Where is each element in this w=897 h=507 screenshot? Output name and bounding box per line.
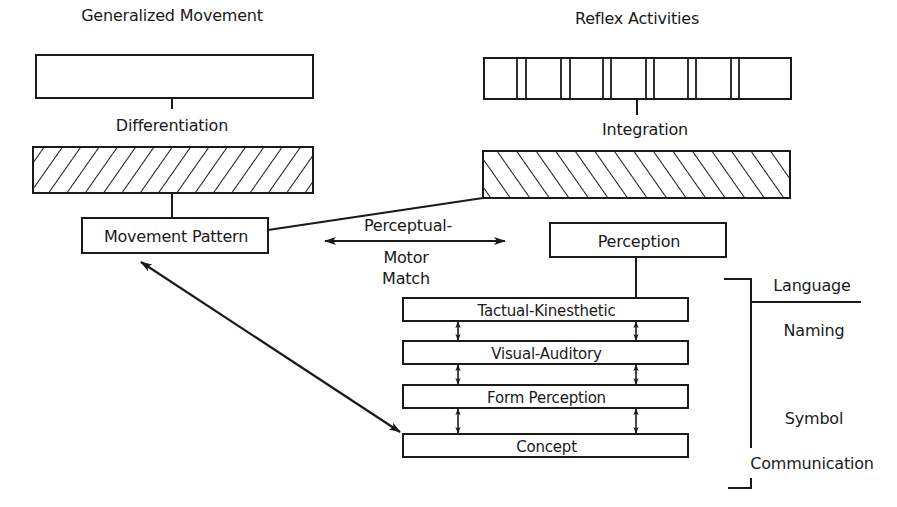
naming-label: Naming xyxy=(784,323,845,339)
tactual-kinesthetic-label: Tactual-Kinesthetic xyxy=(403,298,690,323)
differentiation-hatched-box xyxy=(33,147,313,193)
generalized-movement-label: Generalized Movement xyxy=(81,8,263,24)
match-label-line3: Match xyxy=(382,271,430,287)
differentiation-label: Differentiation xyxy=(116,118,228,134)
stack-double-arrows xyxy=(458,322,636,433)
concept-label: Concept xyxy=(403,434,690,459)
form-perception-label: Form Perception xyxy=(403,385,690,410)
integration-hatched-box xyxy=(483,151,790,198)
diagram-canvas: Generalized Movement Differentiation Mov… xyxy=(0,0,897,507)
perception-label: Perception xyxy=(550,223,728,259)
match-label-line1: Perceptual- xyxy=(364,218,452,234)
movement-concept-arrow xyxy=(141,262,400,432)
match-label-line2: Motor xyxy=(383,250,428,266)
symbol-label: Symbol xyxy=(785,411,843,427)
generalized-movement-box xyxy=(36,55,313,98)
movement-pattern-label: Movement Pattern xyxy=(82,218,270,255)
communication-label: Communication xyxy=(750,456,874,472)
integration-label: Integration xyxy=(602,122,688,138)
reflex-activities-label: Reflex Activities xyxy=(575,11,699,27)
visual-auditory-label: Visual-Auditory xyxy=(403,341,690,366)
reflex-activities-box xyxy=(484,58,791,99)
language-label: Language xyxy=(773,278,850,294)
